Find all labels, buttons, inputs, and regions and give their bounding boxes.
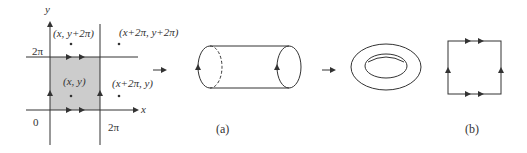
tick-y-2pi: 2π xyxy=(32,45,43,57)
identified-square xyxy=(445,38,504,97)
point-dot xyxy=(70,95,73,98)
origin-label: 0 xyxy=(33,116,39,128)
tick-x-2pi: 2π xyxy=(108,121,119,133)
point-label: (x+2π, y) xyxy=(112,77,153,89)
x-axis-label: x xyxy=(141,103,146,115)
y-axis-label: y xyxy=(45,3,50,15)
point-dot xyxy=(118,43,121,46)
caption-b: (b) xyxy=(465,122,479,137)
point-label: (x, y+2π) xyxy=(53,27,94,39)
point-label: (x+2π, y+2π) xyxy=(119,26,178,38)
point-dot xyxy=(70,43,73,46)
cylinder-shape xyxy=(195,46,301,88)
point-dot xyxy=(118,95,121,98)
figure: y x 0 2π 2π (x, y) (x, y+2π) (x+2π, y) (… xyxy=(0,0,527,153)
torus-shape xyxy=(351,44,421,90)
caption-a: (a) xyxy=(216,122,229,137)
point-label: (x, y) xyxy=(63,75,86,87)
